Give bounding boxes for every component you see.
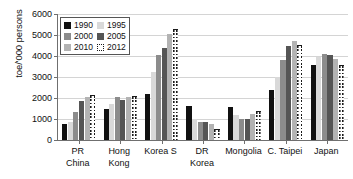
bar	[333, 59, 338, 140]
bar-group	[182, 14, 223, 140]
legend-item-1990: 1990	[64, 20, 93, 30]
legend-swatch-2005	[97, 33, 104, 40]
legend-swatch-1995	[97, 22, 104, 29]
x-axis-label-line: Hong	[98, 146, 139, 158]
bar-chart: toe/'000 persons 60005000400030002000100…	[0, 0, 353, 179]
bar	[62, 124, 67, 140]
x-tick-mark	[120, 140, 121, 144]
bar-group	[265, 14, 306, 140]
x-tick-mark	[79, 140, 80, 144]
bar	[162, 48, 167, 140]
bar	[151, 72, 156, 140]
bar-group	[307, 14, 348, 140]
legend-label: 1990	[74, 20, 93, 30]
legend-label: 2012	[107, 42, 126, 52]
legend-swatch-2010	[64, 44, 71, 51]
x-axis-label-line: PR	[57, 146, 98, 158]
bar	[109, 104, 114, 140]
bar	[186, 106, 191, 140]
x-axis-label-line: Korea	[181, 158, 222, 170]
x-tick-mark	[203, 140, 204, 144]
bar	[173, 29, 178, 140]
x-axis-label: Japan	[306, 146, 347, 169]
bar	[339, 65, 344, 140]
bar	[126, 97, 131, 140]
bar	[250, 114, 255, 140]
bar	[145, 94, 150, 140]
bar	[192, 119, 197, 140]
y-tick-label: 3000	[32, 72, 52, 82]
x-tick-mark	[286, 140, 287, 144]
bar	[256, 111, 261, 140]
x-axis-label: HongKong	[98, 146, 139, 169]
x-axis-labels: PRChinaHongKongKorea SDRKoreaMongoliaC. …	[57, 146, 347, 169]
x-tick-mark	[327, 140, 328, 144]
bar	[292, 41, 297, 140]
x-tick-mark	[244, 140, 245, 144]
y-axis-title: toe/'000 persons	[13, 0, 24, 99]
x-axis-label: Mongolia	[223, 146, 264, 169]
x-axis-label: C. Taipei	[264, 146, 305, 169]
legend-item-2012: 2012	[97, 42, 126, 52]
bar	[132, 96, 137, 140]
x-axis-label-line: Kong	[98, 158, 139, 170]
y-tick-label: 2000	[32, 93, 52, 103]
bar	[198, 122, 203, 140]
bar	[311, 65, 316, 140]
bar	[280, 60, 285, 140]
bar	[228, 107, 233, 140]
x-axis-label: PRChina	[57, 146, 98, 169]
legend-item-1995: 1995	[97, 20, 126, 30]
bar	[245, 119, 250, 140]
bar	[233, 115, 238, 140]
bar	[327, 55, 332, 140]
bar	[297, 45, 302, 140]
bar	[316, 57, 321, 140]
x-axis-label-line: DR	[181, 146, 222, 158]
y-tick-mark	[54, 140, 58, 141]
y-tick-label: 1000	[32, 114, 52, 124]
legend-label: 1995	[107, 20, 126, 30]
legend-label: 2000	[74, 31, 93, 41]
bar	[68, 122, 73, 140]
bar-group	[224, 14, 265, 140]
bar	[167, 34, 172, 140]
bar	[90, 95, 95, 140]
bar	[269, 90, 274, 140]
x-axis-label-line: C. Taipei	[264, 146, 305, 158]
legend-swatch-2000	[64, 33, 71, 40]
bar	[156, 55, 161, 140]
bar	[73, 112, 78, 140]
bar	[209, 124, 214, 140]
x-axis-label: Korea S	[140, 146, 181, 169]
bar	[203, 122, 208, 140]
legend-item-2000: 2000	[64, 31, 93, 41]
bar	[85, 97, 90, 140]
bar	[322, 54, 327, 140]
bar	[286, 46, 291, 140]
x-axis-label-line: China	[57, 158, 98, 170]
bar	[115, 97, 120, 140]
legend-label: 2005	[107, 31, 126, 41]
x-axis-label-line: Japan	[306, 146, 347, 158]
bar	[120, 100, 125, 140]
x-axis-label: DRKorea	[181, 146, 222, 169]
y-tick-label: 4000	[32, 51, 52, 61]
bar	[104, 109, 109, 141]
chart-legend: 199019952000200520102012	[60, 17, 130, 55]
bar	[214, 129, 219, 140]
x-tick-mark	[162, 140, 163, 144]
x-axis-label-line: Korea S	[140, 146, 181, 158]
legend-item-2010: 2010	[64, 42, 93, 52]
bar	[239, 119, 244, 140]
y-tick-label: 6000	[32, 9, 52, 19]
legend-label: 2010	[74, 42, 93, 52]
y-tick-label: 0	[47, 135, 52, 145]
legend-item-2005: 2005	[97, 31, 126, 41]
y-tick-label: 5000	[32, 30, 52, 40]
bar-group	[141, 14, 182, 140]
legend-swatch-1990	[64, 22, 71, 29]
x-axis-label-line: Mongolia	[223, 146, 264, 158]
bar	[79, 101, 84, 140]
legend-swatch-2012	[97, 44, 104, 51]
